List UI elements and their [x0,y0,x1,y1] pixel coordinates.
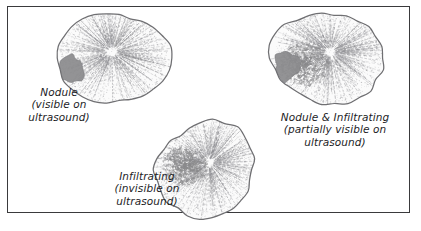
label-nodule-infiltrating: Nodule & Infiltrating (partially visible… [256,111,414,148]
label-infiltrating-line-3: ultrasound) [88,195,206,207]
label-infiltrating-line-1: Infiltrating [88,170,206,182]
label-both-line-1: Nodule & Infiltrating [256,111,414,123]
label-infiltrating-line-2: (invisible on [88,182,206,194]
label-nodule: Nodule (visible on ultrasound) [6,86,112,123]
label-nodule-line-1: Nodule [6,86,112,98]
specimen-nodule-infiltrating [269,0,397,107]
label-infiltrating: Infiltrating (invisible on ultrasound) [88,170,206,207]
label-both-line-3: ultrasound) [256,136,414,148]
figure-panel: Nodule (visible on ultrasound) Infiltrat… [0,0,421,231]
label-nodule-line-2: (visible on [6,98,112,110]
label-nodule-line-3: ultrasound) [6,111,112,123]
label-both-line-2: (partially visible on [256,123,414,135]
